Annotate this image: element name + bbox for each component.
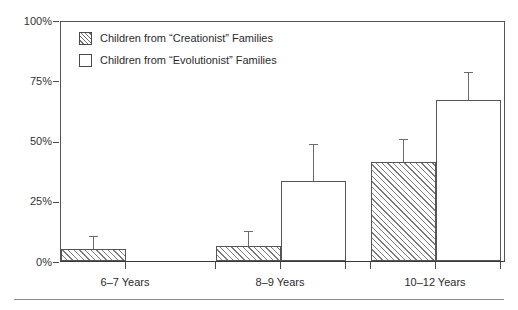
y-tick-mark-0 <box>53 262 59 263</box>
bar-evolutionist-10-12-years <box>436 100 501 261</box>
y-tick-label-50: 50% <box>4 136 52 147</box>
error-cap-evolutionist-10-12-years <box>464 72 473 73</box>
error-cap-evolutionist-8-9-years <box>309 144 318 145</box>
bar-group-6-7-years <box>61 20 191 261</box>
bar-creationist-8-9-years <box>216 246 281 261</box>
bar-creationist-6-7-years <box>61 249 126 261</box>
error-bar-creationist-6-7-years <box>93 237 94 249</box>
error-bar-creationist-10-12-years <box>403 140 404 162</box>
error-cap-creationist-6-7-years <box>89 236 98 237</box>
error-bar-evolutionist-10-12-years <box>468 73 469 100</box>
y-tick-mark-75 <box>53 81 59 82</box>
bar-creationist-10-12-years <box>371 162 436 261</box>
error-cap-creationist-8-9-years <box>244 231 253 232</box>
x-tick-mark-5 <box>370 262 371 269</box>
y-tick-mark-50 <box>53 142 59 143</box>
x-tick-mark-1 <box>125 262 126 269</box>
y-tick-label-75: 75% <box>4 76 52 87</box>
x-tick-mark-2 <box>215 262 216 269</box>
y-tick-label-0: 0% <box>4 257 52 268</box>
y-tick-label-100: 100% <box>4 16 52 27</box>
y-axis: 100% 75% 50% 25% 0% <box>0 0 52 310</box>
x-tick-mark-6 <box>435 262 436 269</box>
x-label-10-12-years: 10–12 Years <box>370 276 500 288</box>
x-label-6-7-years: 6–7 Years <box>60 276 190 288</box>
bar-chart-figure: 100% 75% 50% 25% 0% Children from “Creat… <box>0 0 518 310</box>
y-tick-mark-25 <box>53 202 59 203</box>
footer-rule <box>14 299 504 300</box>
y-tick-mark-100 <box>53 21 59 22</box>
x-tick-mark-7 <box>500 262 501 269</box>
error-cap-creationist-10-12-years <box>399 139 408 140</box>
error-bar-evolutionist-8-9-years <box>313 145 314 181</box>
x-tick-mark-3 <box>280 262 281 269</box>
bar-evolutionist-8-9-years <box>281 181 346 261</box>
error-bar-creationist-8-9-years <box>248 232 249 246</box>
y-tick-label-25: 25% <box>4 196 52 207</box>
bar-group-10-12-years <box>371 20 501 261</box>
x-tick-mark-4 <box>345 262 346 269</box>
plot-area: Children from “Creationist” Families Chi… <box>60 21 505 262</box>
bar-group-8-9-years <box>216 20 346 261</box>
x-label-8-9-years: 8–9 Years <box>215 276 345 288</box>
